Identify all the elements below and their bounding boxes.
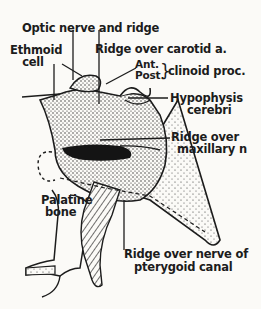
pterygopalatine-fossa xyxy=(38,152,55,181)
label-optic-nerve: Optic nerve and ridge xyxy=(22,22,159,34)
label-clinoid: clinoid proc. xyxy=(168,65,245,77)
label-ethmoid-cell-2: cell xyxy=(10,56,56,68)
optic-ridge-bulge xyxy=(70,75,101,91)
anatomy-figure: Optic nerve and ridge Ethmoid cell Ridge… xyxy=(0,0,261,309)
label-palatine-2: bone xyxy=(45,206,76,218)
label-ridge-carotid: Ridge over carotid a. xyxy=(95,43,227,55)
label-ridge-maxillary-2: maxillary n xyxy=(177,143,247,155)
label-pterygoid-1: Ridge over nerve of xyxy=(124,248,248,260)
label-hypophysis-2: cerebri xyxy=(187,104,232,116)
label-pterygoid-2: pterygoid canal xyxy=(134,261,232,273)
